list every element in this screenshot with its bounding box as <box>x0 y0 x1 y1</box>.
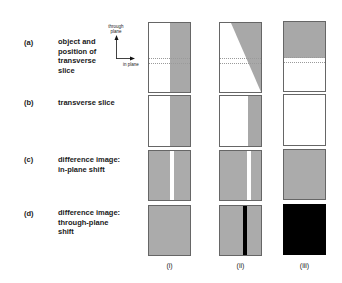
object-region <box>170 96 190 146</box>
panel-ii-b <box>219 95 262 147</box>
negative-edge-stripe <box>243 206 247 255</box>
positive-edge-stripe <box>170 151 174 200</box>
column-label-ii: (ii) <box>219 262 262 269</box>
slice-line-top <box>284 57 325 58</box>
axis-label-in-plane: in plane <box>119 62 143 67</box>
object-region <box>248 96 261 146</box>
column-label-iii: (iii) <box>283 262 326 269</box>
slice-line-top <box>149 58 190 59</box>
panel-iii-b <box>283 94 326 146</box>
panel-i-c <box>148 150 191 201</box>
panel-iii-c <box>283 149 326 200</box>
panel-i-a <box>148 22 191 93</box>
slice-line-bottom <box>220 63 261 64</box>
object-region <box>284 22 325 58</box>
positive-edge-stripe <box>247 151 251 200</box>
panel-ii-c <box>219 150 262 201</box>
slice-line-bottom <box>149 63 190 64</box>
slice-line-top <box>220 58 261 59</box>
panel-i-d <box>148 205 191 256</box>
panel-i-b <box>148 95 191 147</box>
panel-ii-d <box>219 205 262 256</box>
panel-iii-a <box>283 21 326 92</box>
slice-line-bottom <box>284 62 325 63</box>
column-label-i: (i) <box>148 262 191 269</box>
panel-ii-a <box>219 22 262 93</box>
panel-iii-d <box>283 204 326 255</box>
